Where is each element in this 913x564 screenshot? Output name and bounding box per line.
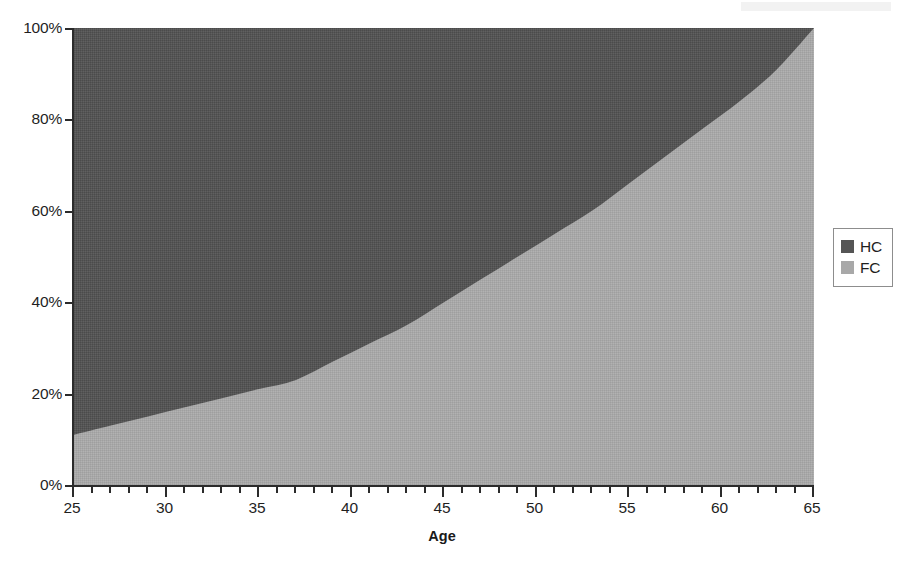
x-tick-label-55: 55 — [619, 500, 636, 516]
x-tick-mark-65 — [812, 487, 814, 497]
x-tick-mark-42 — [387, 487, 389, 493]
x-tick-mark-61 — [738, 487, 740, 493]
y-tick-mark-20 — [65, 394, 72, 396]
y-tick-label-40: 40% — [0, 294, 62, 310]
y-tick-mark-0 — [65, 485, 72, 487]
y-tick-label-0: 0% — [0, 477, 62, 493]
x-tick-mark-25 — [72, 487, 74, 497]
x-tick-mark-46 — [461, 487, 463, 493]
x-tick-mark-45 — [442, 487, 444, 497]
x-axis-title: Age — [0, 528, 884, 544]
x-tick-mark-26 — [91, 487, 93, 493]
y-tick-mark-60 — [65, 211, 72, 213]
y-tick-mark-40 — [65, 302, 72, 304]
x-tick-mark-39 — [331, 487, 333, 493]
x-tick-mark-28 — [128, 487, 130, 493]
x-tick-mark-48 — [498, 487, 500, 493]
x-tick-mark-31 — [183, 487, 185, 493]
x-tick-mark-40 — [350, 487, 352, 497]
x-tick-label-60: 60 — [711, 500, 728, 516]
x-tick-mark-51 — [553, 487, 555, 493]
y-tick-label-60: 60% — [0, 203, 62, 219]
y-tick-mark-80 — [65, 119, 72, 121]
x-tick-mark-59 — [701, 487, 703, 493]
x-tick-label-35: 35 — [249, 500, 266, 516]
x-tick-mark-49 — [516, 487, 518, 493]
legend-label-fc: FC — [860, 260, 880, 276]
x-tick-mark-29 — [146, 487, 148, 493]
x-tick-label-50: 50 — [526, 500, 543, 516]
y-tick-label-20: 20% — [0, 386, 62, 402]
y-axis: 100% 80% 60% 40% 20% 0% — [0, 0, 62, 520]
x-tick-mark-55 — [627, 487, 629, 497]
x-tick-mark-53 — [590, 487, 592, 493]
x-tick-label-40: 40 — [341, 500, 358, 516]
x-tick-label-25: 25 — [64, 500, 81, 516]
x-tick-mark-37 — [294, 487, 296, 493]
plot-area — [72, 28, 814, 487]
legend: HC FC — [833, 228, 893, 287]
x-tick-label-30: 30 — [156, 500, 173, 516]
legend-item-fc[interactable]: FC — [841, 257, 887, 278]
x-tick-mark-34 — [239, 487, 241, 493]
y-tick-mark-100 — [65, 28, 72, 30]
x-tick-mark-44 — [424, 487, 426, 493]
y-tick-label-80: 80% — [0, 112, 62, 128]
x-tick-mark-52 — [572, 487, 574, 493]
x-tick-mark-64 — [794, 487, 796, 493]
x-tick-mark-58 — [683, 487, 685, 493]
legend-label-hc: HC — [860, 239, 882, 255]
stacked-area-chart: 100% 80% 60% 40% 20% 0% 25 30 35 40 45 5… — [0, 0, 913, 564]
x-tick-label-45: 45 — [434, 500, 451, 516]
x-tick-label-65: 65 — [804, 500, 821, 516]
x-tick-mark-33 — [220, 487, 222, 493]
x-tick-mark-54 — [609, 487, 611, 493]
x-tick-mark-41 — [368, 487, 370, 493]
y-tick-label-100: 100% — [0, 20, 62, 36]
x-tick-mark-50 — [535, 487, 537, 497]
x-tick-mark-57 — [664, 487, 666, 493]
x-tick-mark-30 — [165, 487, 167, 497]
x-tick-mark-62 — [757, 487, 759, 493]
x-tick-mark-47 — [479, 487, 481, 493]
x-tick-mark-56 — [646, 487, 648, 493]
x-tick-mark-27 — [109, 487, 111, 493]
x-tick-mark-38 — [313, 487, 315, 493]
plot-canvas — [74, 28, 814, 485]
scan-artifact — [741, 2, 891, 11]
x-tick-mark-43 — [405, 487, 407, 493]
x-tick-mark-35 — [257, 487, 259, 497]
legend-swatch-fc-icon — [841, 261, 854, 274]
x-tick-mark-60 — [720, 487, 722, 497]
x-tick-mark-63 — [775, 487, 777, 493]
legend-swatch-hc-icon — [841, 240, 854, 253]
legend-item-hc[interactable]: HC — [841, 236, 887, 257]
x-tick-mark-36 — [276, 487, 278, 493]
x-tick-mark-32 — [202, 487, 204, 493]
